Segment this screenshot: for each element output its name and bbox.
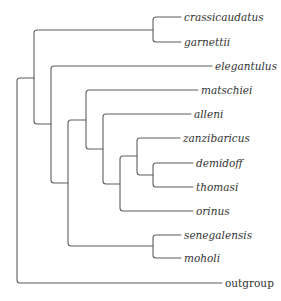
node-orinus-clade [120,156,193,211]
taxon-label-demidoff: demidoff [196,157,244,169]
taxon-label-zanzibaricus: zanzibaricus [182,132,250,144]
taxon-label-crassicaudatus: crassicaudatus [184,11,264,23]
phylogenetic-tree: crassicaudatus garnettii elegantulus mat… [0,0,281,301]
node-zanzibaricus-clade [137,138,180,175]
node-ingroup [34,30,153,124]
taxon-label-garnettii: garnettii [184,36,230,48]
taxon-label-orinus: orinus [196,205,230,217]
node-demidoff-thomasi [153,163,193,187]
node-elegantulus-clade [51,66,212,183]
taxon-label-elegantulus: elegantulus [215,60,278,72]
taxon-label-thomasi: thomasi [196,181,238,193]
taxon-label-moholi: moholi [184,252,220,264]
node-alleni-clade [103,114,191,184]
taxon-label-senegalensis: senegalensis [184,229,253,241]
node-senegalensis-moholi [153,235,181,258]
taxon-label-matschiei: matschiei [201,84,252,96]
taxon-label-outgroup: outgroup [225,277,274,289]
taxon-label-alleni: alleni [194,108,223,120]
node-crassicaudatus-garnettii [153,17,181,42]
node-dwarf-galago-clade [68,120,153,246]
